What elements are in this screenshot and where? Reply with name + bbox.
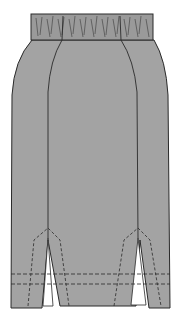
waistband bbox=[31, 14, 153, 40]
skirt-body bbox=[11, 40, 170, 308]
skirt-flat-drawing bbox=[0, 0, 182, 321]
